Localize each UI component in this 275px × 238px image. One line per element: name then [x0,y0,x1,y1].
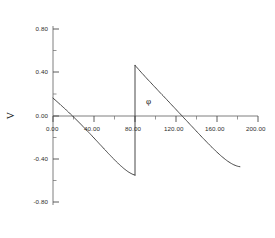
x-tick-label-160: 160.00 [205,125,225,132]
phi-label: φ [146,96,151,106]
data-series-v [53,65,240,175]
x-axis-minor-ticks [74,116,238,120]
chart-figure: 0.80 0.40 0.00 -0.40 -0.80 0.00 40.00 80… [0,0,275,238]
x-tick-label-120: 120.00 [164,125,184,132]
y-tick-label-0.00: 0.00 [22,112,48,119]
axes-group [53,26,258,205]
y-tick-label--0.80: -0.80 [19,198,48,205]
y-tick-label-0.80: 0.80 [22,25,48,32]
y-tick-label--0.40: -0.40 [19,155,48,162]
y-axis-title: V [5,108,16,124]
x-tick-label-80: 80.00 [125,125,141,132]
x-tick-label-40: 40.00 [84,125,100,132]
x-tick-label-200: 200.00 [246,125,266,132]
y-axis-major-ticks [53,29,59,202]
x-tick-label-0: 0.00 [46,125,58,132]
y-tick-label-0.40: 0.40 [22,68,48,75]
y-axis-minor-ticks [53,51,57,181]
curve-first-branch [53,98,135,175]
